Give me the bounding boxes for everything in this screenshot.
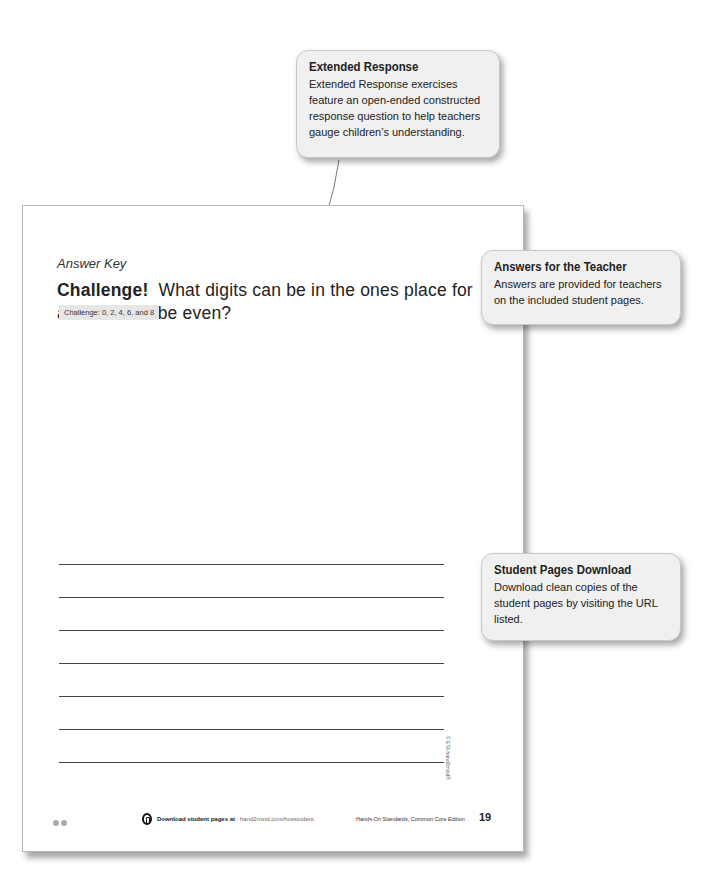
- callout-title: Student Pages Download: [494, 562, 647, 577]
- copyright-notice: © ETA hand2mind®: [445, 736, 451, 780]
- writing-line: [59, 696, 444, 697]
- writing-line: [59, 630, 444, 631]
- callout-body: Answers are provided for teachers on the…: [494, 276, 668, 308]
- download-circle-icon: [142, 813, 152, 825]
- footer-dots: [53, 820, 67, 826]
- callout-answers-for-teacher: Answers for the Teacher Answers are prov…: [481, 250, 681, 325]
- writing-line: [59, 597, 444, 598]
- writing-line: [59, 762, 444, 763]
- page-number: 19: [479, 811, 491, 823]
- answer-key-label: Answer Key: [57, 256, 126, 271]
- challenge-lead: Challenge!: [57, 280, 148, 300]
- callout-title: Extended Response: [309, 59, 466, 74]
- callout-body: Download clean copies of the student pag…: [494, 579, 668, 627]
- download-note: Download student pages at hand2mind.com/…: [142, 813, 315, 825]
- callout-body: Extended Response exercises feature an o…: [309, 76, 487, 140]
- book-title: Hands-On Standards, Common Core Edition: [356, 816, 465, 822]
- download-url-link[interactable]: hand2mind.com/hosstudent.: [240, 816, 315, 822]
- writing-line: [59, 729, 444, 730]
- writing-line: [59, 564, 444, 565]
- callout-extended-response: Extended Response Extended Response exer…: [296, 50, 500, 158]
- callout-student-pages-download: Student Pages Download Download clean co…: [481, 553, 681, 641]
- download-text: Download student pages at: [157, 816, 235, 822]
- student-page: Answer Key Challenge!What digits can be …: [22, 205, 524, 852]
- callout-title: Answers for the Teacher: [494, 259, 647, 274]
- answer-badge: Challenge: 0, 2, 4, 6, and 8: [59, 305, 159, 320]
- writing-line: [59, 663, 444, 664]
